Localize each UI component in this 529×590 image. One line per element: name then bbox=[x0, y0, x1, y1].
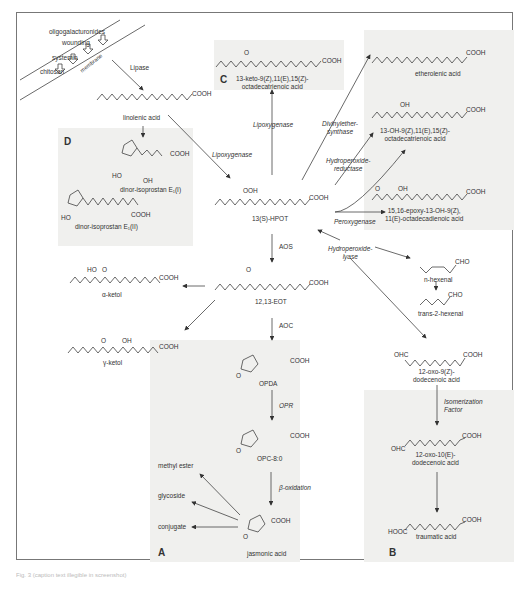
enzyme-opr: OPR bbox=[279, 402, 293, 410]
arrow-lyase-to-oxo bbox=[350, 258, 426, 338]
enzyme-hydroperoxide-reductase: Hydroperoxide- reductase bbox=[326, 157, 370, 172]
structure-opda bbox=[241, 355, 258, 372]
structure-etherolenic-acid bbox=[372, 57, 467, 63]
group-ohc: OHC bbox=[391, 445, 405, 453]
enzyme-divinylether-synthase: Divinylether- synthase bbox=[322, 120, 358, 135]
group-oh: OH bbox=[143, 177, 153, 185]
group-oh: OH bbox=[400, 101, 410, 109]
signal-label: systemin bbox=[52, 54, 78, 61]
enzyme-aoc: AOC bbox=[279, 322, 293, 330]
enzyme-hydroperoxide-lyase: Hydroperoxide- lyase bbox=[328, 245, 372, 260]
compound-opc80: OPC-8:0 bbox=[257, 455, 282, 463]
group-cooh: COOH bbox=[466, 49, 486, 57]
compound-alpha-ketol: α-ketol bbox=[102, 291, 122, 299]
group-cho: CHO bbox=[455, 258, 469, 266]
group-cooh: COOH bbox=[463, 351, 483, 359]
group-hooc: HOOC bbox=[388, 528, 408, 536]
group-cooh: COOH bbox=[170, 150, 190, 158]
arrow-lyase-to-hpot bbox=[318, 230, 340, 240]
compound-traumatic-acid: traumatic acid bbox=[416, 533, 456, 541]
compound-dinor-isoprostan-ii: dinor-isoprostan E₁(II) bbox=[75, 223, 138, 231]
group-cho: CHO bbox=[448, 291, 462, 299]
compound-dinor-isoprostan-i: dinor-isoprostan E₁(I) bbox=[120, 186, 181, 194]
compound-jasmonic-acid: jasmonic acid bbox=[247, 550, 286, 558]
enzyme-lipase: Lipase bbox=[130, 64, 149, 72]
compound-oxo-dodecenoic-10e: 12-oxo-10(E)- dodecenoic acid bbox=[412, 451, 459, 466]
group-cooh: COOH bbox=[290, 357, 310, 365]
group-ohc: OHC bbox=[394, 351, 408, 359]
group-ho: HO bbox=[61, 214, 71, 222]
compound-etherolenic-acid: etherolenic acid bbox=[415, 70, 461, 78]
structure-dinor-isoprostan-i bbox=[122, 140, 137, 156]
group-ho: HO bbox=[112, 172, 122, 180]
structure-epoxy-octadecadienoic bbox=[372, 194, 467, 200]
arrow-eot-to-gamma-ketol bbox=[185, 300, 215, 330]
structure-dinor-isoprostan-ii-chain bbox=[83, 198, 138, 205]
group-o: O bbox=[102, 266, 107, 274]
group-ooh: OOH bbox=[243, 187, 258, 195]
structure-hpot bbox=[215, 199, 310, 205]
structure-eot bbox=[215, 284, 310, 290]
structure-gamma-ketol bbox=[68, 347, 158, 353]
group-cooh: COOH bbox=[159, 343, 179, 351]
signal-label: wounding bbox=[62, 39, 90, 46]
group-cooh: COOH bbox=[309, 279, 329, 287]
panel-label-c: C bbox=[220, 74, 227, 85]
product-conjugate: conjugate bbox=[158, 523, 186, 531]
compound-linolenic-acid: linolenic acid bbox=[123, 114, 160, 122]
group-cooh: COOH bbox=[322, 57, 342, 65]
structure-n-hexenal bbox=[420, 265, 456, 273]
group-oh: OH bbox=[398, 185, 408, 193]
product-methyl-ester: methyl ester bbox=[158, 462, 193, 470]
enzyme-peroxygenase: Peroxygenase bbox=[334, 218, 376, 226]
structure-traumatic-acid bbox=[405, 522, 465, 530]
group-cooh: COOH bbox=[271, 517, 291, 525]
figure-caption: Fig. 3 (caption text illegible in screen… bbox=[16, 572, 511, 578]
enzyme-beta-oxidation: β-oxidation bbox=[279, 484, 311, 492]
compound-oxo-dodecenoic-9z: 12-oxo-9(Z)- dodecenoic acid bbox=[413, 368, 460, 383]
panel-label-b: B bbox=[389, 547, 396, 558]
group-o: O bbox=[236, 447, 241, 455]
group-oh: OH bbox=[122, 337, 132, 345]
structure-trans-2-hexenal bbox=[420, 297, 450, 305]
compound-n-hexenal: n-hexenal bbox=[424, 276, 453, 284]
compound-hydroxy-octadecatrienoic: 13-OH-9(Z),11(E),15(Z)- octadecatrienoic… bbox=[380, 127, 450, 142]
arrow-linolenic-to-hpot bbox=[168, 115, 230, 178]
group-cooh: COOH bbox=[159, 274, 179, 282]
membrane-line-inner bbox=[20, 25, 145, 100]
group-o: O bbox=[375, 185, 380, 193]
structure-opc80 bbox=[241, 430, 258, 447]
group-cooh: COOH bbox=[462, 516, 482, 524]
arrow-lyase-to-hexenal bbox=[375, 247, 410, 258]
compound-eot: 12,13-EOT bbox=[255, 298, 287, 306]
arrow-ja-to-methyl-ester bbox=[200, 474, 240, 515]
group-ho: HO bbox=[87, 266, 97, 274]
structure-linolenic-acid bbox=[97, 94, 192, 100]
structure-keto-octadecatrienoic bbox=[216, 61, 321, 67]
structure-oxo-dodecenoic-9z bbox=[405, 358, 465, 366]
group-o: O bbox=[101, 337, 106, 345]
structure-dinor-isoprostan-ii bbox=[68, 190, 83, 206]
group-cooh: COOH bbox=[131, 211, 151, 219]
structure-jasmonic-acid bbox=[248, 515, 265, 532]
compound-epoxy-octadecadienoic: 15,16-epoxy-13-OH-9(Z), 11(E)-octadecadi… bbox=[385, 207, 463, 222]
group-o: O bbox=[244, 49, 249, 57]
group-cooh: COOH bbox=[466, 188, 486, 196]
compound-keto-octadecatrienoic: 13-keto-9(Z),11(E),15(Z)- octadecatrieno… bbox=[236, 75, 308, 90]
compound-opda: OPDA bbox=[259, 380, 277, 388]
group-cooh: COOH bbox=[192, 90, 212, 98]
group-cooh: COOH bbox=[462, 432, 482, 440]
enzyme-lipoxygenase: Lipoxygenase bbox=[212, 151, 252, 159]
group-cooh: COOH bbox=[290, 432, 310, 440]
structure-hydroxy-octadecatrienoic bbox=[372, 112, 467, 118]
signal-label: oligogalacturonides bbox=[49, 28, 105, 35]
enzyme-isomerization-factor: Isomerization Factor bbox=[444, 398, 483, 413]
enzyme-lipoxygenase: Lipoxygenase bbox=[253, 121, 293, 129]
enzyme-aos: AOS bbox=[279, 243, 293, 251]
structure-alpha-ketol bbox=[70, 277, 160, 283]
group-o: O bbox=[236, 372, 241, 380]
group-o: O bbox=[243, 533, 248, 541]
arrow-ja-to-glycoside bbox=[192, 502, 238, 520]
signal-arrow-icon bbox=[98, 35, 108, 45]
panel-label-a: A bbox=[158, 547, 165, 558]
